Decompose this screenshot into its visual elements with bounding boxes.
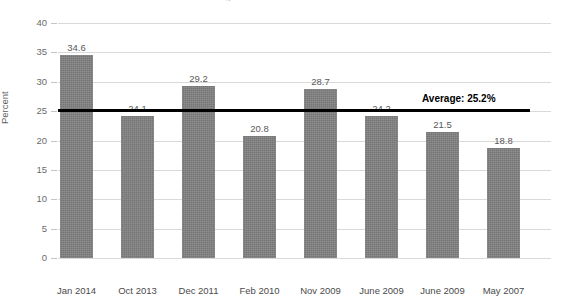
x-tick-label: Nov 2009 xyxy=(286,285,356,296)
bar-value-label: 18.8 xyxy=(477,135,531,146)
bar[interactable] xyxy=(365,116,398,258)
y-tick-label: 30 xyxy=(21,77,47,87)
y-tick-label: 40 xyxy=(21,18,47,28)
y-axis-tick xyxy=(51,199,57,200)
x-tick-label: Oct 2013 xyxy=(103,285,173,296)
y-tick-label: 15 xyxy=(21,165,47,175)
y-tick-label: 5 xyxy=(21,224,47,234)
gridline xyxy=(58,52,551,53)
y-axis-tick xyxy=(51,141,57,142)
y-tick-label: 10 xyxy=(21,194,47,204)
bar-value-label: 20.8 xyxy=(233,123,287,134)
x-tick-label: Feb 2010 xyxy=(225,285,295,296)
x-tick-label: June 2009 xyxy=(408,285,478,296)
chart-title: Significant Difference Over Time xyxy=(0,0,565,1)
bar[interactable] xyxy=(243,136,276,258)
y-axis-tick xyxy=(51,23,57,24)
plot-area: 051015202530354034.6Jan 201424.1Oct 2013… xyxy=(58,23,551,258)
bar-value-label: 29.2 xyxy=(172,73,226,84)
bar[interactable] xyxy=(426,132,459,258)
average-label: Average: 25.2% xyxy=(422,93,496,104)
bar[interactable] xyxy=(487,148,520,258)
bar[interactable] xyxy=(121,116,154,258)
x-tick-label: Dec 2011 xyxy=(164,285,234,296)
bar[interactable] xyxy=(182,86,215,258)
bar-value-label: 34.6 xyxy=(50,42,104,53)
bar-value-label: 21.5 xyxy=(416,119,470,130)
y-tick-label: 35 xyxy=(21,47,47,57)
y-axis-tick xyxy=(51,82,57,83)
bar-value-label: 28.7 xyxy=(294,76,348,87)
x-tick-label: May 2007 xyxy=(469,285,539,296)
y-axis-tick xyxy=(51,229,57,230)
y-tick-label: 0 xyxy=(21,253,47,263)
x-tick-label: Jan 2014 xyxy=(42,285,112,296)
y-axis-tick xyxy=(51,111,57,112)
gridline xyxy=(58,258,551,259)
gridline xyxy=(58,23,551,24)
y-tick-label: 20 xyxy=(21,136,47,146)
y-tick-label: 25 xyxy=(21,106,47,116)
y-axis-tick xyxy=(51,258,57,259)
x-tick-label: June 2009 xyxy=(347,285,417,296)
bar[interactable] xyxy=(60,55,93,258)
y-axis-tick xyxy=(51,170,57,171)
bar[interactable] xyxy=(304,89,337,258)
y-axis-title: Percent xyxy=(0,91,10,124)
average-line xyxy=(58,109,530,112)
